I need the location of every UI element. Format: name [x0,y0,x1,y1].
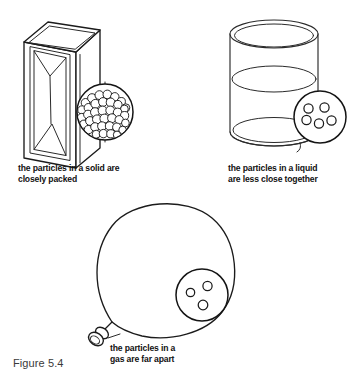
figure-container: the particles in a solid are closely pac… [0,0,360,379]
particle [198,300,208,310]
caption-liquid: the particles in a liquid are less close… [228,163,360,186]
gas-magnifier-circle [176,269,228,321]
caption-solid: the particles in a solid are closely pac… [18,163,178,186]
particle [186,288,194,296]
balloon-neck-lower [108,334,120,338]
particle [327,116,336,125]
solid-block-illustration [24,22,133,168]
liquid-beaker-illustration [230,20,346,152]
particle [320,103,329,112]
particle [304,104,313,113]
particle [314,119,323,128]
figure-label: Figure 5.4 [13,357,64,370]
particle [302,115,311,124]
particle [122,119,130,127]
particle [203,281,212,290]
gas-balloon-illustration [86,204,235,349]
caption-gas: the particles in a gas are far apart [110,343,250,366]
block-front-face [24,42,76,168]
liquid-magnifier-circle [294,91,346,143]
states-of-matter-diagram [0,0,360,379]
